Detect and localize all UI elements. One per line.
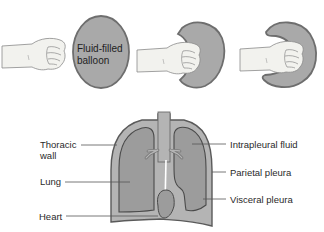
label-thoracic-wall: Thoracic wall xyxy=(40,139,76,161)
label-thoracic-wall-line2: wall xyxy=(40,150,56,161)
fist-icon-2 xyxy=(137,42,200,73)
label-intrapleural-fluid: Intrapleural fluid xyxy=(230,139,298,150)
label-lung: Lung xyxy=(40,176,61,187)
label-thoracic-wall-line1: Thoracic xyxy=(40,139,76,150)
fist-icon-3 xyxy=(240,41,303,72)
balloon-label: Fluid-filled balloon xyxy=(77,43,123,67)
label-heart: Heart xyxy=(39,211,62,222)
balloon-label-line1: Fluid-filled xyxy=(77,43,123,54)
fist-icon-1 xyxy=(2,38,65,69)
thorax-diagram xyxy=(65,112,226,226)
label-visceral-pleura: Visceral pleura xyxy=(230,194,293,205)
balloon-label-line2: balloon xyxy=(77,55,109,66)
label-parietal-pleura: Parietal pleura xyxy=(230,167,291,178)
